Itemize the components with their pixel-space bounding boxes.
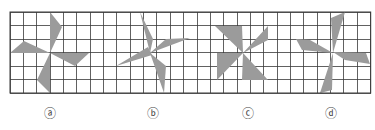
pinwheel-blade (50, 12, 62, 53)
pinwheel-c (215, 26, 268, 80)
pinwheel-blade (217, 53, 243, 80)
pinwheel-blade (116, 47, 152, 66)
square-grid (10, 12, 371, 93)
pinwheel-blade (37, 53, 50, 93)
pinwheel-blade (215, 26, 243, 53)
pinwheel-blade (333, 52, 370, 64)
option-label-c: ⓒ (238, 106, 258, 122)
option-label-d: ⓓ (321, 106, 341, 122)
pinwheel-blade (50, 53, 89, 66)
pinwheel-blade (140, 12, 153, 53)
option-label-a: ⓐ (40, 106, 60, 122)
pinwheel-blade (296, 39, 333, 53)
pinwheel-blade (10, 41, 50, 53)
option-label-b: ⓑ (143, 106, 163, 122)
pinwheel-blade (150, 53, 166, 93)
pinwheel-blade (243, 26, 268, 53)
pinwheel-blade (331, 12, 345, 53)
pinwheel-blade (320, 53, 333, 93)
